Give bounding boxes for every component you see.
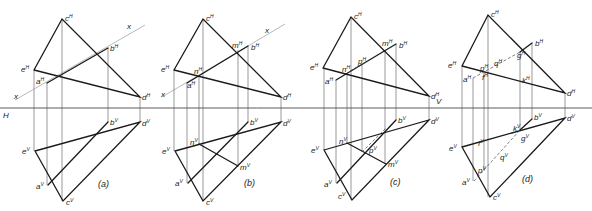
svg-text:cV: cV [338,191,346,201]
svg-text:mV: mV [240,162,251,172]
svg-text:aH: aH [463,74,471,84]
svg-text:gV: gV [521,133,529,143]
svg-text:x: x [160,90,166,99]
svg-text:nV: nV [339,136,347,146]
svg-text:mV: mV [388,159,399,169]
svg-text:eV: eV [22,146,30,156]
svg-text:pV: pV [368,145,377,155]
svg-text:bV: bV [250,117,258,127]
ground-line-label-V: V [436,97,442,106]
svg-text:cH: cH [65,13,73,23]
svg-text:qH: qH [494,58,502,68]
svg-text:dH: dH [283,92,291,102]
svg-text:aV: aV [462,177,470,187]
svg-text:bV: bV [534,112,542,122]
caption-c: (c) [390,177,401,187]
svg-text:gH: gH [517,50,525,60]
svg-text:fH: fH [482,72,488,82]
ground-line-label-H: H [3,111,9,120]
svg-text:pH: pH [357,56,366,66]
panel-b: x x cH eH nH aH mH bH dH bV dV nV eV mV … [160,13,291,207]
svg-text:bH: bH [110,43,118,53]
svg-text:cH: cH [206,13,214,23]
caption-b: (b) [244,178,255,188]
svg-text:mH: mH [232,40,243,50]
svg-text:bH: bH [251,42,259,52]
svg-text:dH: dH [142,92,150,102]
svg-text:dV: dV [431,116,439,126]
svg-text:aV: aV [324,179,332,189]
svg-text:aH: aH [325,76,333,86]
svg-text:aH: aH [36,76,44,86]
svg-text:eH: eH [310,62,318,72]
svg-text:cV: cV [66,197,74,207]
svg-text:eV: eV [311,145,319,155]
svg-text:aV: aV [175,178,183,188]
svg-text:fV: fV [478,138,484,148]
caption-a: (a) [98,179,109,189]
svg-text:pV: pV [477,165,486,175]
svg-text:bV: bV [398,115,406,125]
svg-text:cV: cV [493,192,501,202]
caption-d: (d) [522,174,533,184]
orthographic-projection-figure: H V x x cH eH aH bH dH bV dV eV aV cV (a… [0,0,592,211]
svg-text:dH: dH [567,88,575,98]
svg-text:cH: cH [354,11,362,21]
svg-text:dV: dV [567,113,575,123]
svg-text:bH: bH [399,40,407,50]
svg-text:x: x [13,92,19,101]
svg-text:bH: bH [535,38,543,48]
svg-text:eV: eV [162,146,170,156]
svg-text:x: x [126,22,132,31]
panel-a: x x cH eH aH bH dH bV dV eV aV cV (a) [13,13,150,207]
svg-text:eH: eH [448,60,456,70]
panel-c: cH eH nH pH aH mH bH dH bV dV nV eV pV m… [310,11,439,201]
svg-text:cV: cV [206,197,214,207]
svg-text:qV: qV [500,152,508,162]
svg-text:eH: eH [161,64,169,74]
svg-text:eV: eV [449,143,457,153]
panel-d: cH eH pH qH fH aH gH bH kH dH bV dV kV g… [448,9,575,202]
svg-text:dV: dV [283,118,291,128]
svg-text:cH: cH [491,9,499,19]
svg-text:bV: bV [110,117,118,127]
svg-text:eH: eH [21,64,29,74]
svg-text:aV: aV [36,181,44,191]
svg-text:dV: dV [142,118,150,128]
svg-text:aH: aH [187,80,195,90]
